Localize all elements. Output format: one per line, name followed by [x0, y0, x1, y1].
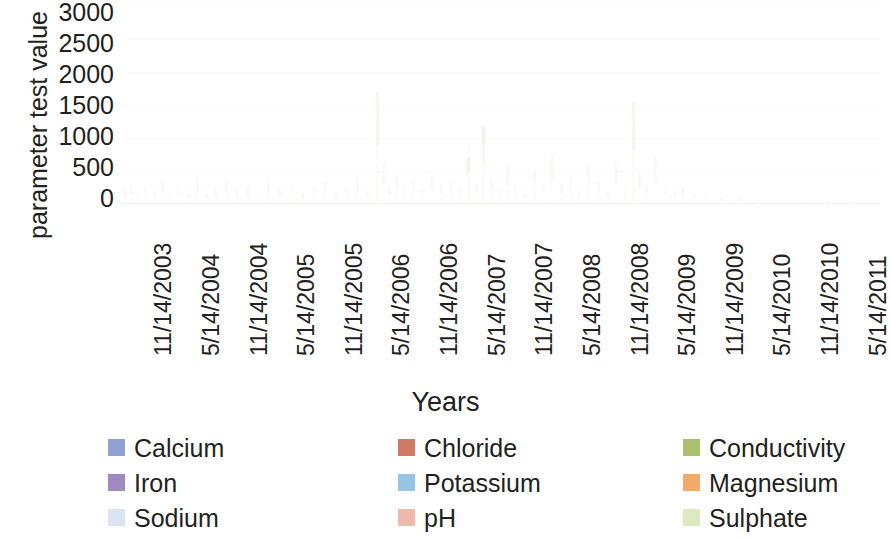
bar-segment	[739, 199, 742, 200]
y-axis-tick-label: 1000	[34, 124, 114, 149]
legend-item-label: Sodium	[134, 504, 219, 532]
legend-item-potassium[interactable]: Potassium	[398, 465, 683, 500]
bar-segment	[324, 182, 327, 187]
bar-column	[542, 186, 545, 204]
bar-segment	[673, 191, 676, 194]
bar-column	[475, 184, 478, 204]
bar-segment	[168, 196, 171, 199]
x-axis-tick-label: 5/14/2007	[486, 206, 508, 356]
legend-swatch-icon	[108, 474, 125, 491]
legend-item-chloride[interactable]: Chloride	[398, 430, 683, 465]
bar-segment	[664, 189, 667, 194]
x-axis-tick-label: 11/14/2008	[629, 206, 651, 356]
bar-column	[482, 126, 485, 204]
bar-segment	[334, 194, 337, 197]
bar-segment	[382, 172, 385, 184]
bar-column	[144, 187, 147, 204]
bar-segment	[632, 150, 635, 204]
bar-column	[382, 163, 385, 204]
bar-segment	[632, 102, 635, 124]
bar-segment	[615, 171, 618, 183]
bar-column	[376, 92, 379, 204]
legend-swatch-icon	[108, 509, 125, 526]
bar-segment	[301, 192, 304, 194]
x-axis-tick-label: 5/14/2008	[581, 206, 603, 356]
bar-segment	[161, 187, 164, 193]
legend-item-ph[interactable]: pH	[398, 500, 683, 535]
bar-segment	[267, 179, 270, 184]
bar-segment	[430, 177, 433, 187]
bar-segment	[482, 164, 485, 204]
bar-segment	[449, 185, 452, 192]
bar-segment	[214, 188, 217, 191]
legend-item-label: Chloride	[424, 434, 517, 462]
bar-segment	[482, 126, 485, 143]
bar-segment	[225, 188, 228, 194]
bar-segment	[533, 180, 536, 188]
y-axis-tick-labels: 300025002000150010005000	[34, 0, 114, 212]
legend-item-conductivity[interactable]: Conductivity	[683, 430, 891, 465]
bar-segment	[130, 190, 133, 195]
bar-column	[645, 187, 648, 204]
y-axis-tick-label: 0	[34, 186, 114, 211]
bar-segment	[403, 187, 406, 191]
bar-segment	[587, 167, 590, 175]
bar-column	[403, 187, 406, 204]
bar-segment	[587, 175, 590, 185]
bar-column	[497, 188, 500, 204]
bar-segment	[673, 194, 676, 197]
legend-item-magnesium[interactable]: Magnesium	[683, 465, 891, 500]
bar-segment	[187, 190, 190, 193]
bar-segment	[257, 193, 260, 195]
bar-column	[290, 184, 293, 204]
bar-column	[578, 188, 581, 205]
bar-segment	[720, 198, 723, 199]
bar-segment	[506, 167, 509, 175]
bar-segment	[267, 184, 270, 191]
legend-item-label: Potassium	[424, 469, 541, 497]
bar-column	[560, 184, 563, 204]
y-axis-tick-label: 2500	[34, 31, 114, 56]
bar-segment	[739, 200, 742, 201]
legend-item-calcium[interactable]: Calcium	[108, 430, 398, 465]
bar-column	[551, 154, 554, 204]
legend-item-label: Magnesium	[709, 469, 838, 497]
bar-segment	[475, 184, 478, 188]
x-axis-tick-label: 5/14/2010	[771, 206, 793, 356]
bar-segment	[144, 191, 147, 196]
bar-segment	[421, 193, 424, 197]
bar-segment	[533, 188, 536, 204]
bar-segment	[514, 183, 517, 188]
legend-item-iron[interactable]: Iron	[108, 465, 398, 500]
x-axis-tick-label: 5/14/2005	[295, 206, 317, 356]
bar-segment	[246, 186, 249, 190]
bar-column	[533, 173, 536, 204]
x-axis-tick-label: 11/14/2005	[343, 206, 365, 356]
bar-segment	[177, 190, 180, 195]
y-axis-tick-label: 2000	[34, 62, 114, 87]
bar-segment	[136, 193, 139, 195]
bar-segment	[497, 188, 500, 191]
bar-segment	[551, 179, 554, 204]
bar-segment	[412, 182, 415, 187]
bar-segment	[130, 184, 133, 189]
bar-column	[569, 176, 572, 204]
bar-segment	[124, 189, 127, 193]
bar-column	[225, 182, 228, 204]
x-axis-tick-label: 5/14/2009	[676, 206, 698, 356]
bar-segment	[606, 193, 609, 197]
legend-item-sulphate[interactable]: Sulphate	[683, 500, 891, 535]
bar-segment	[632, 124, 635, 150]
bar-segment	[458, 192, 461, 196]
bar-segment	[177, 186, 180, 190]
bar-column	[313, 187, 316, 204]
bar-segment	[645, 187, 648, 191]
bar-segment	[560, 184, 563, 188]
bar-column	[449, 179, 452, 204]
bar-column	[124, 189, 127, 204]
x-axis-tick-label: 11/14/2007	[533, 206, 555, 356]
x-axis-tick-label: 11/14/2003	[152, 206, 174, 356]
legend-item-sodium[interactable]: Sodium	[108, 500, 398, 535]
bar-segment	[366, 191, 369, 194]
bar-segment	[569, 183, 572, 190]
